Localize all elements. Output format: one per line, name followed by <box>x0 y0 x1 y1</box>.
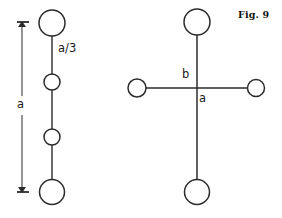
right-cross-panel <box>128 9 265 205</box>
figure-vector-graphic <box>0 0 282 218</box>
figure-canvas: Fig. 9 a/3 a b a <box>0 0 282 218</box>
atom-small-upper-left <box>44 74 60 90</box>
label-total-length-a: a <box>17 99 24 111</box>
atom-large-bottom-right <box>185 180 210 205</box>
figure-caption: Fig. 9 <box>238 9 269 20</box>
label-cross-horizontal-b: b <box>182 69 189 81</box>
atom-large-bottom-left <box>40 180 65 205</box>
atom-large-top-left <box>39 10 65 36</box>
label-segment-a-over-3: a/3 <box>58 43 76 55</box>
left-chain-panel <box>17 10 65 205</box>
atom-large-top-right <box>184 9 210 35</box>
atom-small-right-arm <box>248 80 265 97</box>
atom-small-left-arm <box>128 79 146 97</box>
atom-small-lower-left <box>44 129 60 145</box>
label-cross-vertical-a: a <box>199 93 206 105</box>
